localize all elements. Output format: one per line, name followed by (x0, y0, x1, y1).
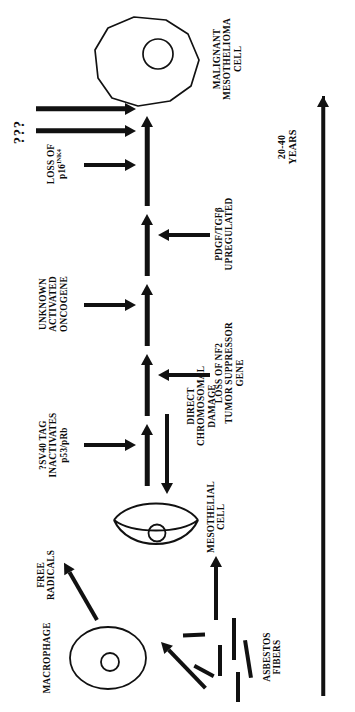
sv40-arrow-icon (84, 434, 136, 456)
diagram-canvas: 20-40 YEARS ASBESTOS FIBERS MACROPHAGE (0, 0, 355, 712)
asbestos-to-mesothelial-arrow-icon (205, 556, 227, 620)
pdgf-arrow-icon (158, 224, 210, 246)
macrophage-label: MACROPHAGE (42, 618, 52, 698)
progression-arrow-2 (136, 354, 158, 416)
malignant-line3: CELL (233, 0, 243, 126)
free-radicals-line1: FREE (36, 532, 46, 618)
timeline-label: 20-40 YEARS (276, 87, 298, 207)
sv40-line1: ?SV40 TAG (38, 384, 48, 506)
free-radicals-arrow-icon (54, 557, 106, 625)
nf2-label: LOSS OF NF2 TUMOR SUPPRESSOR GENE (214, 312, 245, 434)
oncogene-line1: UNKNOWN (38, 252, 48, 356)
mesothelial-label-line1: MESOTHELIAL (206, 474, 216, 560)
asbestos-label-line2: FIBERS (272, 598, 282, 712)
pdgf-line1: PDGF/TGFβ (214, 180, 224, 288)
p16-superscript: INK4 (55, 149, 62, 164)
timeline-label-line1: 20-40 (276, 87, 287, 207)
timeline-label-line2: YEARS (287, 87, 298, 207)
pdgf-line2: UPREGULATED (224, 180, 234, 288)
asbestos-label-line1: ASBESTOS (262, 598, 272, 712)
nf2-line1: LOSS OF NF2 (214, 312, 224, 434)
timeline-arrow-icon (310, 96, 336, 696)
malignant-mesothelioma-label: MALIGNANT MESOTHELIOMA CELL (212, 0, 243, 126)
p16-arrow-icon (84, 154, 136, 176)
mesothelial-cell-label: MESOTHELIAL CELL (206, 474, 227, 560)
nf2-line2: TUMOR SUPPRESSOR (224, 312, 234, 434)
oncogene-line2: ACTIVATED (48, 252, 58, 356)
unknown-label: ??? (12, 120, 28, 144)
macrophage-label-text: MACROPHAGE (42, 618, 52, 698)
fiber-segment (232, 618, 236, 660)
progression-arrow-4 (136, 214, 158, 276)
sv40-line2: INACTIVATES (48, 384, 58, 506)
fiber-segment (236, 672, 240, 702)
p16-base: p16 (58, 164, 68, 179)
nf2-line3: GENE (235, 312, 245, 434)
asbestos-fibers-label: ASBESTOS FIBERS (262, 598, 283, 712)
free-radicals-label: FREE RADICALS (36, 532, 57, 618)
malignant-line2: MESOTHELIOMA (222, 0, 232, 126)
nf2-arrow-icon (158, 364, 210, 386)
malignant-mesothelioma-cell-icon (92, 8, 204, 112)
direct-chromosomal-damage-arrow-icon (156, 414, 178, 494)
progression-arrow-1 (136, 424, 158, 486)
oncogene-arrow-icon (84, 294, 136, 316)
free-radicals-line2: RADICALS (46, 532, 56, 618)
oncogene-line3: ONCOGENE (59, 252, 69, 356)
sv40-line3: p53/pRb (59, 384, 69, 506)
mesothelial-label-line2: CELL (216, 474, 226, 560)
mesothelial-cell-icon (110, 488, 202, 560)
unknown-arrow-icon-1 (36, 120, 136, 142)
progression-arrow-3 (136, 284, 158, 346)
progression-arrow-5 (136, 116, 158, 206)
oncogene-label: UNKNOWN ACTIVATED ONCOGENE (38, 252, 69, 356)
rotated-figure-wrapper: 20-40 YEARS ASBESTOS FIBERS MACROPHAGE (0, 0, 355, 712)
fiber-segment (218, 645, 222, 676)
pdgf-label: PDGF/TGFβ UPREGULATED (214, 180, 235, 288)
sv40-label: ?SV40 TAG INACTIVATES p53/pRb (38, 384, 69, 506)
fiber-segment (243, 640, 253, 678)
fiber-segment (183, 633, 205, 638)
malignant-line1: MALIGNANT (212, 0, 222, 126)
macrophage-cell-icon (66, 620, 150, 696)
asbestos-fibers-icon (196, 612, 258, 704)
